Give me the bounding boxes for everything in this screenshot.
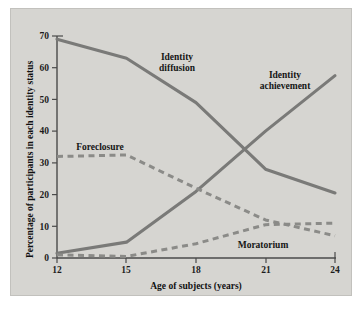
x-axis-tick-labels: 12 15 18 21 24 — [52, 265, 340, 275]
series-annotations: Identity diffusion Identity achievement … — [76, 52, 311, 250]
y-tick-label-50: 50 — [40, 95, 50, 105]
x-tick-label-18: 18 — [191, 265, 201, 275]
y-tick-label-20: 20 — [40, 190, 50, 200]
y-tick-label-60: 60 — [40, 63, 50, 73]
series-label-identity-achievement-line1: Identity — [269, 70, 301, 80]
series-line-foreclosure — [57, 155, 335, 236]
y-tick-label-70: 70 — [40, 31, 50, 41]
y-tick-label-40: 40 — [40, 126, 50, 136]
y-axis-title: Percentage of participants in each ident… — [25, 61, 35, 258]
y-axis-tick-labels: 0 10 20 30 40 50 60 70 — [40, 31, 50, 263]
x-tick-label-15: 15 — [121, 265, 131, 275]
y-tick-label-0: 0 — [44, 253, 49, 263]
y-tick-label-10: 10 — [40, 222, 50, 232]
chart-figure: Percentage of participants in each ident… — [0, 0, 362, 310]
series-label-identity-diffusion-line1: Identity — [161, 52, 193, 62]
series-line-identity-diffusion — [57, 39, 335, 193]
x-axis-title: Age of subjects (years) — [150, 281, 242, 292]
y-tick-label-30: 30 — [40, 158, 50, 168]
series-label-identity-achievement-line2: achievement — [260, 81, 311, 91]
series-line-moratorium — [57, 223, 335, 256]
line-chart: Percentage of participants in each ident… — [0, 0, 362, 310]
x-tick-label-21: 21 — [261, 265, 271, 275]
series-label-moratorium: Moratorium — [238, 240, 289, 250]
series-label-foreclosure: Foreclosure — [76, 142, 124, 152]
x-tick-label-24: 24 — [330, 265, 340, 275]
x-tick-label-12: 12 — [52, 265, 62, 275]
series-label-identity-diffusion-line2: diffusion — [159, 63, 196, 73]
